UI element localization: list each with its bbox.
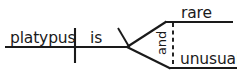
complement-word-unusual: unusual xyxy=(180,50,237,68)
subject-word: platypus xyxy=(10,29,76,47)
verb-word: is xyxy=(90,29,102,47)
conjunction-word-and: and xyxy=(154,31,169,55)
sentence-diagram: platypus is rare unusual and xyxy=(0,0,237,80)
sentence-diagram-canvas: platypus is rare unusual and xyxy=(0,0,237,80)
predicate-complement-slant-line xyxy=(118,28,130,48)
complement-word-rare: rare xyxy=(181,4,212,22)
